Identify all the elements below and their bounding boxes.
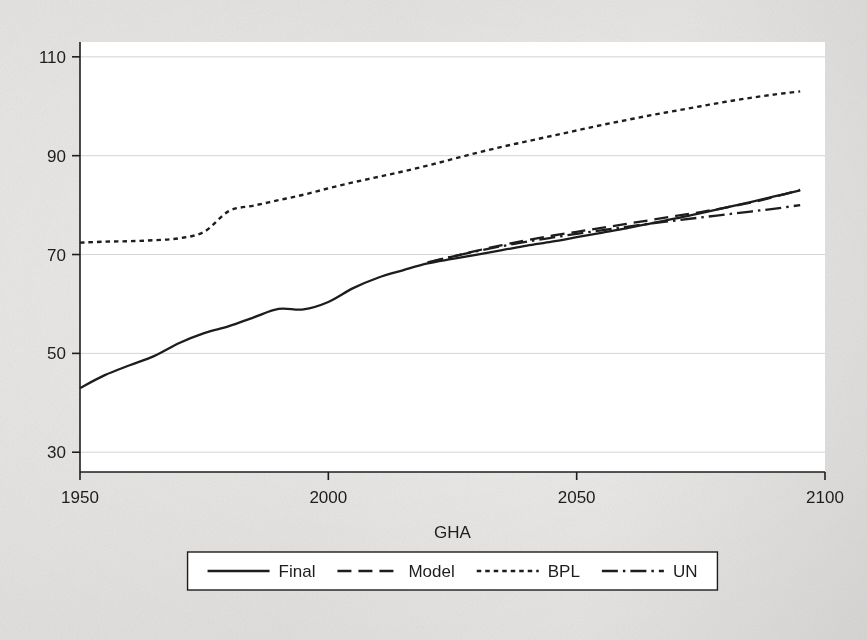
legend-label-model: Model [408, 562, 454, 581]
x-tick-label: 2050 [558, 488, 596, 507]
x-tick-label: 2100 [806, 488, 844, 507]
x-axis-title: GHA [434, 523, 472, 542]
y-tick-label: 30 [47, 443, 66, 462]
legend-label-un: UN [673, 562, 698, 581]
y-tick-label: 50 [47, 344, 66, 363]
y-tick-label: 110 [39, 48, 66, 67]
chart-figure: 30507090110 1950200020502100 GHA FinalMo… [0, 0, 867, 640]
x-tick-label: 1950 [61, 488, 99, 507]
line-chart: 30507090110 1950200020502100 GHA FinalMo… [0, 0, 867, 640]
x-axis-tick-labels: 1950200020502100 [61, 488, 844, 507]
y-axis-tick-labels: 30507090110 [39, 48, 66, 462]
y-tick-label: 70 [47, 246, 66, 265]
y-tick-label: 90 [47, 147, 66, 166]
legend-label-bpl: BPL [548, 562, 580, 581]
legend-label-final: Final [279, 562, 316, 581]
chart-legend: FinalModelBPLUN [188, 552, 718, 590]
x-tick-label: 2000 [309, 488, 347, 507]
